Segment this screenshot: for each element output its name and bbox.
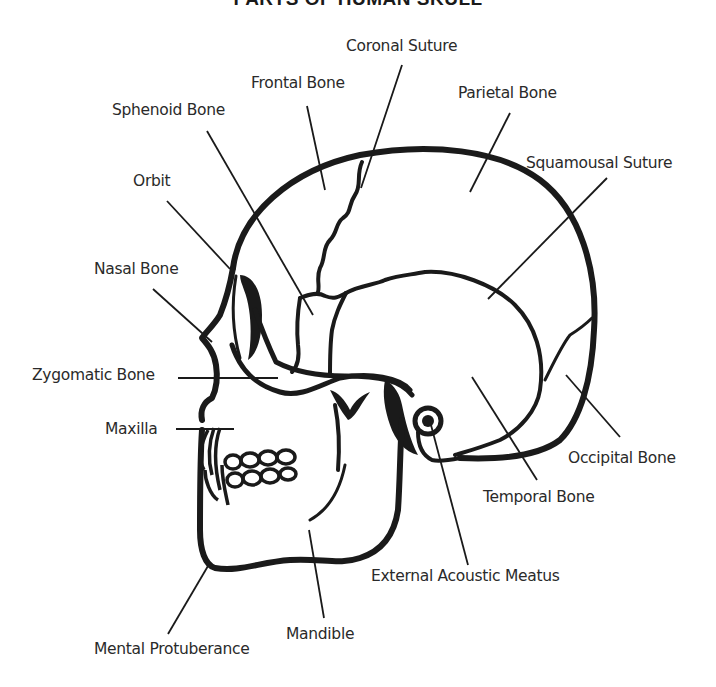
label-zygomatic-bone: Zygomatic Bone [32,366,155,384]
label-parietal-bone: Parietal Bone [458,84,557,102]
label-occipital-bone: Occipital Bone [568,449,676,467]
occipital-suture-line [545,318,592,380]
teeth [201,428,296,505]
ear-canal-inner [422,415,434,427]
label-external-acoustic-meatus: External Acoustic Meatus [371,567,560,585]
label-coronal-suture: Coronal Suture [346,37,457,55]
squamosal-suture-line [346,272,541,455]
coronal-suture-line [318,162,362,292]
cranium-outline [233,149,595,458]
skull-illustration [0,0,716,687]
label-mental-protuberance: Mental Protuberance [94,640,249,658]
label-nasal-bone: Nasal Bone [94,260,178,278]
label-frontal-bone: Frontal Bone [251,74,345,92]
label-sphenoid-bone: Sphenoid Bone [112,101,225,119]
mandible-outline [200,420,402,569]
label-orbit: Orbit [133,172,170,190]
label-maxilla: Maxilla [105,420,157,438]
label-squamousal-suture: Squamousal Suture [526,154,672,172]
label-temporal-bone: Temporal Bone [483,488,594,506]
label-mandible: Mandible [286,625,354,643]
face-profile [201,268,233,420]
